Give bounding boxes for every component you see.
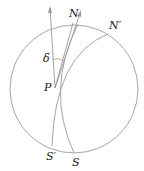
label-N: N: [68, 7, 79, 20]
label-delta: δ: [43, 52, 50, 65]
great-circle-NS: [60, 24, 78, 153]
label-N-prime: N′: [108, 19, 122, 32]
label-P: P: [43, 81, 52, 94]
label-S: S: [72, 156, 80, 169]
vertical-axis-line: [50, 8, 55, 88]
sphere-circle: [10, 25, 138, 153]
north-line-2: [55, 23, 73, 88]
great-circle-NpSp: [52, 34, 108, 146]
diagram-canvas: N N′ δ P S′ S: [0, 0, 144, 171]
label-S-prime: S′: [46, 150, 57, 163]
vertical-arrow-head: [48, 6, 52, 13]
